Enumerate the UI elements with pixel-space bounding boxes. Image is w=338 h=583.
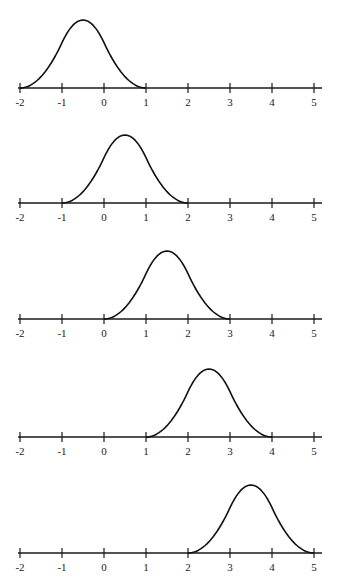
- x-tick-label: 3: [227, 445, 233, 457]
- x-tick-label: 0: [101, 211, 107, 223]
- x-tick-label: 0: [101, 561, 107, 573]
- x-tick-label: 1: [143, 96, 149, 108]
- basis-curve: [62, 135, 188, 203]
- x-tick-label: 3: [227, 327, 233, 339]
- x-tick-label: 0: [101, 96, 107, 108]
- x-tick-label: 3: [227, 211, 233, 223]
- x-tick-label: 5: [311, 211, 317, 223]
- x-tick-label: -2: [15, 327, 24, 339]
- plot-panel-4: -2-1012345: [15, 369, 322, 457]
- x-tick-label: -2: [15, 561, 24, 573]
- x-tick-label: 3: [227, 96, 233, 108]
- x-tick-label: -2: [15, 211, 24, 223]
- x-tick-label: 5: [311, 561, 317, 573]
- x-tick-label: 1: [143, 445, 149, 457]
- x-tick-label: 5: [311, 327, 317, 339]
- plot-panel-2: -2-1012345: [15, 135, 322, 223]
- x-tick-label: 4: [269, 211, 275, 223]
- basis-curve: [104, 251, 230, 319]
- x-tick-label: 4: [269, 561, 275, 573]
- x-tick-label: -1: [57, 445, 66, 457]
- x-tick-label: -1: [57, 211, 66, 223]
- basis-curve: [146, 369, 272, 437]
- plot-panel-1: -2-1012345: [15, 20, 322, 108]
- x-tick-label: 2: [185, 211, 191, 223]
- x-tick-label: 1: [143, 561, 149, 573]
- x-tick-label: 2: [185, 96, 191, 108]
- x-tick-label: 4: [269, 445, 275, 457]
- x-tick-label: -1: [57, 96, 66, 108]
- x-tick-label: -2: [15, 96, 24, 108]
- x-tick-label: -1: [57, 327, 66, 339]
- x-tick-label: 0: [101, 445, 107, 457]
- basis-function-plots: -2-1012345-2-1012345-2-1012345-2-1012345…: [0, 0, 338, 583]
- x-tick-label: 5: [311, 96, 317, 108]
- plot-panel-5: -2-1012345: [15, 485, 322, 573]
- x-tick-label: 3: [227, 561, 233, 573]
- basis-curve: [188, 485, 314, 553]
- x-tick-label: 2: [185, 561, 191, 573]
- basis-curve: [20, 20, 146, 88]
- x-tick-label: 5: [311, 445, 317, 457]
- x-tick-label: -2: [15, 445, 24, 457]
- x-tick-label: 0: [101, 327, 107, 339]
- x-tick-label: 4: [269, 327, 275, 339]
- x-tick-label: -1: [57, 561, 66, 573]
- x-tick-label: 4: [269, 96, 275, 108]
- x-tick-label: 2: [185, 327, 191, 339]
- x-tick-label: 1: [143, 327, 149, 339]
- plot-panel-3: -2-1012345: [15, 251, 322, 339]
- x-tick-label: 2: [185, 445, 191, 457]
- x-tick-label: 1: [143, 211, 149, 223]
